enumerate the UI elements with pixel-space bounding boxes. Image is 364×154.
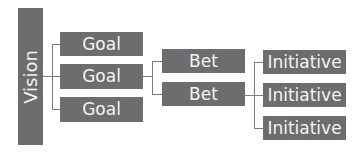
connector-goal-stem [143, 76, 152, 77]
connector-bet-1 [152, 61, 162, 62]
connector-initiative-2 [254, 95, 263, 96]
vision-label: Vision [22, 50, 40, 104]
goal-box: Goal [60, 32, 143, 56]
connector-goal-1 [52, 44, 60, 45]
initiative-box: Initiative [263, 50, 346, 74]
goal-box: Goal [60, 97, 143, 122]
initiative-box: Initiative [263, 116, 346, 140]
connector-goal-3 [52, 109, 60, 110]
initiative-box: Initiative [263, 83, 346, 107]
bet-box: Bet [162, 82, 245, 106]
initiative-label: Initiative [267, 87, 341, 104]
goal-label: Goal [82, 36, 121, 53]
connector-goal-2 [52, 76, 60, 77]
goal-box: Goal [60, 64, 143, 89]
goal-label: Goal [82, 101, 121, 118]
connector-bets-bracket [152, 61, 153, 94]
bet-box: Bet [162, 49, 245, 73]
connector-initiative-3 [254, 128, 263, 129]
connector-bet-stem [245, 95, 254, 96]
connector-initiative-1 [254, 62, 263, 63]
connector-vision-stem [43, 76, 52, 77]
vision-box: Vision [18, 8, 43, 145]
connector-bet-2 [152, 94, 162, 95]
goal-label: Goal [82, 68, 121, 85]
initiative-label: Initiative [267, 54, 341, 71]
initiative-label: Initiative [267, 120, 341, 137]
bet-label: Bet [189, 53, 218, 70]
bet-label: Bet [189, 86, 218, 103]
connector-goals-bracket [52, 44, 53, 110]
